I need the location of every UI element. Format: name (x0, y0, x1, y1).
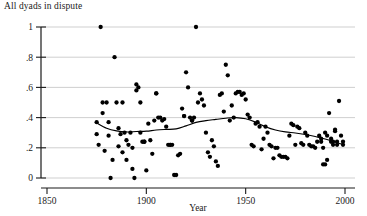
data-point (285, 156, 289, 160)
data-point (102, 149, 106, 153)
data-point (108, 176, 112, 180)
data-point (313, 146, 317, 150)
data-point (130, 167, 134, 171)
data-point (259, 147, 263, 151)
data-point (95, 132, 99, 136)
data-point (214, 159, 218, 163)
data-point (230, 103, 234, 107)
data-point (251, 144, 255, 148)
data-point (323, 162, 327, 166)
data-point (180, 106, 184, 110)
data-point (142, 140, 146, 144)
data-point (202, 103, 206, 107)
data-point (104, 100, 108, 104)
data-point (98, 25, 102, 29)
figure-container: All dyads in dispute 0.2.4.6.81 18501900… (0, 0, 367, 216)
data-point (138, 100, 142, 104)
data-point (186, 85, 190, 89)
data-point (170, 143, 174, 147)
data-point (120, 150, 124, 154)
data-point (192, 115, 196, 119)
data-point (319, 140, 323, 144)
data-point (200, 97, 204, 101)
data-point (271, 156, 275, 160)
data-point (106, 134, 110, 138)
data-point (152, 118, 156, 122)
data-point (136, 85, 140, 89)
data-point (146, 121, 150, 125)
data-point (301, 143, 305, 147)
data-point (224, 63, 228, 67)
data-point (196, 100, 200, 104)
data-point (337, 99, 341, 103)
data-point (124, 138, 128, 142)
y-tick-label: 1 (28, 22, 33, 32)
data-point (150, 152, 154, 156)
y-axis-tick-labels: 0.2.4.6.81 (26, 22, 33, 183)
data-point (120, 100, 124, 104)
x-tick-label: 2000 (336, 196, 355, 206)
data-point (327, 111, 331, 115)
x-tick-label: 1850 (38, 196, 57, 206)
data-point (339, 134, 343, 138)
data-point (265, 131, 269, 135)
y-tick-label: .4 (26, 113, 33, 123)
data-point (154, 91, 158, 95)
data-point (244, 97, 248, 101)
data-point (261, 137, 265, 141)
data-point (222, 109, 226, 113)
data-point (331, 143, 335, 147)
data-point (182, 114, 186, 118)
data-point (110, 158, 114, 162)
scatter-plot: 0.2.4.6.81 1850190019502000 Year (0, 0, 367, 216)
data-point (100, 111, 104, 115)
data-point (287, 134, 291, 138)
data-point (144, 168, 148, 172)
data-point (132, 176, 136, 180)
data-point (226, 73, 230, 77)
data-point (291, 123, 295, 127)
data-point (269, 144, 273, 148)
data-point (321, 146, 325, 150)
data-point (118, 132, 122, 136)
data-point (106, 120, 110, 124)
data-point (114, 100, 118, 104)
data-point (148, 138, 152, 142)
x-axis-ticks (47, 188, 345, 194)
axes-group (41, 27, 355, 188)
data-point (325, 134, 329, 138)
data-point (293, 143, 297, 147)
data-point (198, 91, 202, 95)
data-point (124, 158, 128, 162)
data-point (242, 91, 246, 95)
data-point (208, 155, 212, 159)
data-point (184, 70, 188, 74)
data-point (315, 140, 319, 144)
x-axis-title: Year (189, 203, 207, 213)
data-point (212, 144, 216, 148)
data-point (325, 158, 329, 162)
data-point (228, 118, 232, 122)
y-tick-label: 0 (28, 173, 33, 183)
data-point (178, 152, 182, 156)
data-point (275, 146, 279, 150)
data-point (204, 131, 208, 135)
y-tick-label: .2 (26, 143, 33, 153)
data-point (112, 55, 116, 59)
data-point (97, 143, 101, 147)
x-tick-label: 1950 (236, 196, 255, 206)
data-point (333, 129, 337, 133)
scatter-points-group (95, 25, 346, 180)
data-point (210, 138, 214, 142)
data-point (194, 25, 198, 29)
y-tick-label: .6 (26, 83, 33, 93)
data-point (220, 91, 224, 95)
x-tick-label: 1900 (137, 196, 156, 206)
data-point (206, 150, 210, 154)
data-point (297, 126, 301, 130)
data-point (174, 173, 178, 177)
data-point (216, 164, 220, 168)
data-point (116, 144, 120, 148)
data-point (116, 126, 120, 130)
data-point (162, 117, 166, 121)
